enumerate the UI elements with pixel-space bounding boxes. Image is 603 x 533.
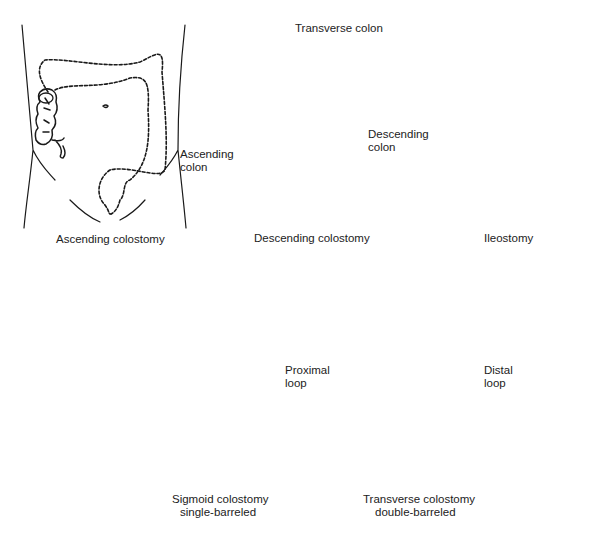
label-proximal-loop-2: loop	[285, 377, 307, 390]
label-ascending-colon-1: Ascending	[180, 148, 234, 161]
caption-transverse-colostomy-1: Transverse colostomy	[363, 493, 475, 506]
caption-ascending-colostomy: Ascending colostomy	[56, 233, 165, 246]
caption-descending-colostomy: Descending colostomy	[254, 232, 370, 245]
caption-transverse-colostomy-2: double-barreled	[375, 506, 456, 519]
label-ascending-colon-2: colon	[180, 161, 208, 174]
navel	[103, 105, 108, 108]
caption-sigmoid-colostomy-1: Sigmoid colostomy	[172, 493, 269, 506]
label-descending-colon-1: Descending	[368, 128, 429, 141]
ascending-colon-solid	[35, 89, 65, 158]
label-distal-loop-2: loop	[484, 377, 506, 390]
label-distal-loop-1: Distal	[484, 364, 513, 377]
stoma-diagram	[0, 0, 603, 533]
torso-outline	[22, 25, 186, 228]
panel-ascending-colostomy	[22, 25, 186, 228]
label-descending-colon-2: colon	[368, 141, 396, 154]
label-transverse-colon: Transverse colon	[295, 22, 383, 35]
caption-sigmoid-colostomy-2: single-barreled	[180, 506, 256, 519]
stoma	[39, 93, 53, 103]
colon-dashed	[39, 54, 166, 214]
caption-ileostomy: Ileostomy	[484, 232, 533, 245]
label-proximal-loop-1: Proximal	[285, 364, 330, 377]
